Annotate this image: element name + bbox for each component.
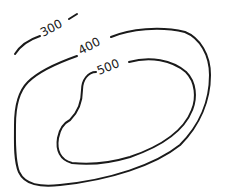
contour-300: 300 — [15, 14, 77, 54]
contour-label-300: 300 — [38, 17, 65, 40]
contour-500: 500 — [58, 56, 195, 164]
contour-diagram: 300 400 500 — [0, 0, 228, 195]
contour-label-400: 400 — [76, 35, 103, 58]
contour-label-500: 500 — [95, 56, 121, 78]
contour-plot: 300 400 500 — [0, 0, 228, 195]
